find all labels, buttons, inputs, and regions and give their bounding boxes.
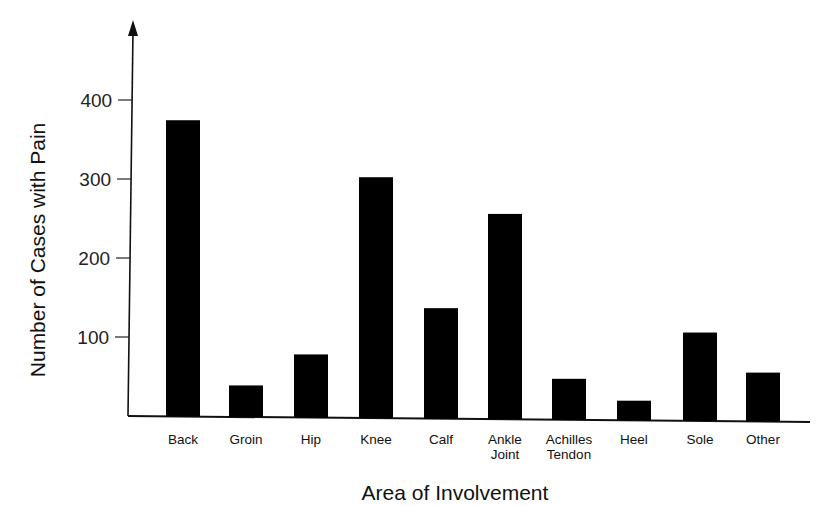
category-labels: BackGroinHipKneeCalfAnkleJointAchillesTe…: [168, 432, 780, 462]
y-axis: 100200300400: [77, 20, 138, 416]
x-tick-label-line: Hip: [301, 432, 321, 447]
x-tick-label-line: Achilles: [546, 432, 593, 447]
x-tick-label: Heel: [620, 432, 648, 447]
x-tick-label-line: Knee: [360, 432, 392, 447]
x-tick-label-line: Sole: [686, 432, 713, 447]
bar: [166, 120, 200, 416]
x-tick-label: Groin: [229, 432, 262, 447]
y-axis-title: Number of Cases with Pain: [26, 123, 49, 377]
x-tick-label: Calf: [429, 432, 453, 447]
x-tick-label-line: Ankle: [488, 432, 522, 447]
bar: [683, 333, 717, 421]
x-tick-label-line: Calf: [429, 432, 453, 447]
y-tick-label: 200: [78, 248, 110, 269]
x-tick-label: Back: [168, 432, 198, 447]
x-tick-label-line: Back: [168, 432, 198, 447]
x-tick-label-line: Tendon: [547, 447, 591, 462]
bar: [359, 177, 393, 418]
x-tick-label: Sole: [686, 432, 713, 447]
bar: [424, 308, 458, 419]
x-tick-label-line: Other: [746, 432, 780, 447]
x-tick-label: AnkleJoint: [488, 432, 522, 462]
y-axis-arrow-icon: [128, 20, 138, 36]
x-axis-title: Area of Involvement: [362, 481, 549, 504]
bar-chart: 100200300400 BackGroinHipKneeCalfAnkleJo…: [0, 0, 831, 506]
bar: [552, 379, 586, 420]
bar: [488, 214, 522, 419]
x-tick-label-line: Heel: [620, 432, 648, 447]
bars: [166, 120, 780, 421]
bar: [229, 385, 263, 417]
bar: [617, 401, 651, 421]
x-tick-label: Hip: [301, 432, 321, 447]
x-tick-label: Other: [746, 432, 780, 447]
x-tick-label-line: Groin: [229, 432, 262, 447]
bar: [294, 354, 328, 417]
y-tick-label: 300: [79, 169, 111, 190]
x-tick-label: AchillesTendon: [546, 432, 593, 462]
y-axis-line: [128, 30, 133, 416]
bar: [746, 373, 780, 422]
y-tick-label: 100: [77, 327, 109, 348]
x-tick-label-line: Joint: [491, 447, 520, 462]
y-tick-label: 400: [80, 90, 112, 111]
x-tick-label: Knee: [360, 432, 392, 447]
